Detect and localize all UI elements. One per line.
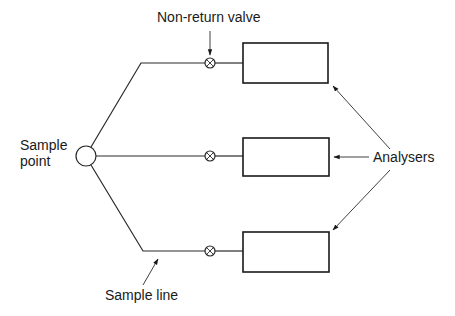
analyser-middle	[243, 138, 329, 176]
sample-point-label-line2: point	[20, 153, 50, 169]
sample-point-label-line1: Sample	[20, 137, 68, 153]
analyser-top	[243, 43, 328, 83]
branch-bottom	[91, 165, 243, 256]
analysers-label: Analysers	[373, 149, 434, 165]
sample-line-bottom	[91, 165, 205, 251]
non-return-valve-icon	[205, 58, 215, 68]
analyser-bottom	[243, 232, 329, 272]
non-return-valve-icon	[205, 151, 215, 161]
analysers-pointer-top	[333, 86, 390, 149]
sample-point-circle	[76, 146, 96, 166]
branch-middle	[96, 151, 243, 161]
sample-line-top	[91, 63, 205, 147]
sample-line-pointer	[143, 259, 158, 285]
non-return-valve-label: Non-return valve	[157, 9, 261, 25]
non-return-valve-icon	[205, 246, 215, 256]
analysers-pointer-bottom	[333, 170, 390, 230]
branch-top	[91, 58, 243, 147]
sampling-diagram: Non-return valve Sample point Analysers …	[0, 0, 455, 316]
sample-line-label: Sample line	[105, 287, 178, 303]
